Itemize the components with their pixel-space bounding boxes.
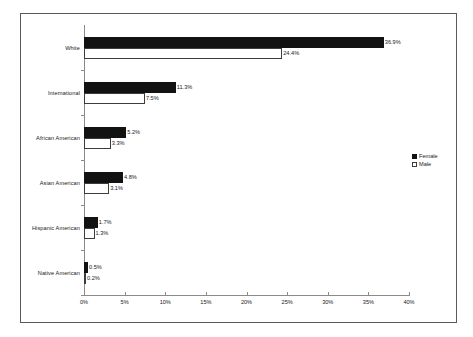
bar-group: International11.3%7.5% [84,70,409,115]
x-axis-tick [328,292,329,296]
x-axis-tick-label: 0% [80,299,88,305]
x-axis-tick [247,292,248,296]
bar-male: 7.5% [84,93,145,104]
chart-legend: Female Male [412,153,438,167]
bar-value-label: 7.5% [146,95,159,101]
bar-value-label: 0.5% [89,264,102,270]
legend-label-female: Female [419,153,438,159]
x-axis-tick-label: 20% [241,299,252,305]
bar-male: 1.3% [84,228,95,239]
legend-item-female: Female [412,153,438,159]
x-axis-tick-label: 5% [121,299,129,305]
legend-item-male: Male [412,161,438,167]
bar-value-label: 1.7% [99,219,112,225]
x-axis-tick [84,292,85,296]
bar-row: 24.4% [84,48,409,59]
x-axis-tick-label: 15% [200,299,211,305]
bar-value-label: 0.2% [87,275,100,281]
bar-row: 0.5% [84,262,409,273]
category-label: African American [36,135,80,141]
bar-value-label: 3.1% [110,185,123,191]
bar-row: 3.1% [84,183,409,194]
category-label: White [65,45,80,51]
bar-group: Hispanic American1.7%1.3% [84,205,409,250]
category-label: Native American [38,270,80,276]
bar-value-label: 11.3% [177,84,192,90]
bar-group: Asian American4.8%3.1% [84,160,409,205]
bar-value-label: 1.3% [96,230,109,236]
x-axis-tick [287,292,288,296]
bar-row: 7.5% [84,93,409,104]
bar-female: 36.9% [84,37,384,48]
category-label: International [48,90,80,96]
x-axis-tick [206,292,207,296]
bar-female: 0.5% [84,262,88,273]
bar-female: 4.8% [84,172,123,183]
bar-male: 0.2% [84,273,86,284]
bar-value-label: 4.8% [124,174,137,180]
bar-value-label: 5.2% [127,129,140,135]
bar-value-label: 3.3% [112,140,125,146]
bar-group: Native American0.5%0.2% [84,250,409,295]
bar-row: 36.9% [84,37,409,48]
bar-row: 1.3% [84,228,409,239]
bar-group: White36.9%24.4% [84,25,409,70]
bar-value-label: 36.9% [385,39,401,45]
bar-male: 24.4% [84,48,282,59]
x-axis-tick [409,292,410,296]
bar-row: 0.2% [84,273,409,284]
filled-square-icon [412,154,417,159]
x-axis-tick [165,292,166,296]
x-axis-tick-label: 25% [282,299,293,305]
bar-female: 1.7% [84,217,98,228]
legend-label-male: Male [419,161,431,167]
bar-male: 3.3% [84,138,111,149]
x-axis-tick-label: 10% [160,299,171,305]
bar-row: 11.3% [84,82,409,93]
bar-row: 3.3% [84,138,409,149]
bar-row: 1.7% [84,217,409,228]
category-label: Asian American [40,180,80,186]
bar-female: 11.3% [84,82,176,93]
x-axis-tick [368,292,369,296]
bar-value-label: 24.4% [283,50,299,56]
chart-frame: White36.9%24.4%International11.3%7.5%Afr… [20,13,457,323]
bar-male: 3.1% [84,183,109,194]
bar-female: 5.2% [84,127,126,138]
bar-row: 4.8% [84,172,409,183]
x-axis-tick-label: 30% [322,299,333,305]
category-label: Hispanic American [32,225,80,231]
bar-group: African American5.2%3.3% [84,115,409,160]
x-axis-tick-label: 40% [403,299,414,305]
open-square-icon [412,162,417,167]
x-axis-tick-label: 35% [363,299,374,305]
bar-row: 5.2% [84,127,409,138]
x-axis-tick [125,292,126,296]
